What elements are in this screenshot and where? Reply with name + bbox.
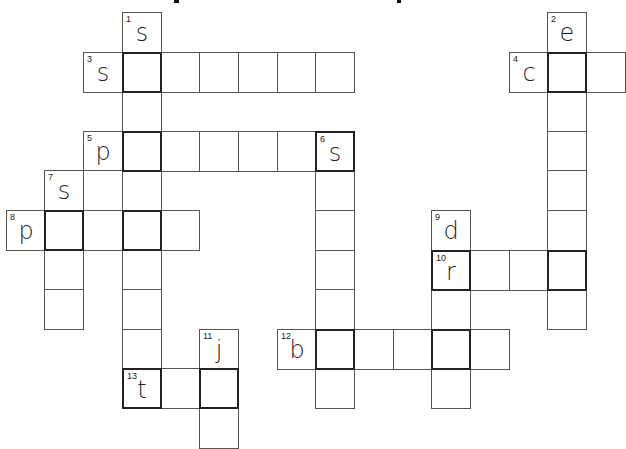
answer-cell[interactable] [547, 289, 587, 330]
answer-cell[interactable] [83, 210, 123, 251]
clue-cell-8[interactable]: 8p [6, 210, 46, 251]
clue-cell-10[interactable]: 10r [431, 250, 471, 291]
answer-cell[interactable] [470, 329, 510, 370]
answer-cell[interactable] [315, 210, 355, 251]
answer-cell[interactable] [122, 170, 162, 211]
hint-letter: s [317, 140, 353, 166]
answer-cell[interactable] [354, 329, 394, 370]
answer-cell[interactable] [199, 368, 239, 409]
hint-letter: s [45, 178, 83, 204]
hint-letter: p [84, 139, 122, 165]
answer-cell[interactable] [315, 170, 355, 211]
answer-cell[interactable] [160, 131, 200, 172]
answer-cell[interactable] [160, 368, 200, 409]
answer-cell[interactable] [277, 52, 317, 93]
answer-cell[interactable] [44, 210, 84, 251]
clue-cell-5[interactable]: 5p [83, 131, 123, 172]
answer-cell[interactable] [547, 131, 587, 172]
answer-cell[interactable] [431, 368, 471, 409]
answer-cell[interactable] [122, 250, 162, 291]
answer-cell[interactable] [277, 131, 317, 172]
hint-letter: e [548, 20, 586, 46]
answer-cell[interactable] [199, 131, 239, 172]
answer-cell[interactable] [547, 170, 587, 211]
answer-cell[interactable] [238, 52, 278, 93]
hint-letter: p [7, 218, 45, 244]
title-fragment [174, 0, 179, 3]
answer-cell[interactable] [509, 250, 549, 291]
answer-cell[interactable] [470, 250, 510, 291]
answer-cell[interactable] [547, 250, 587, 291]
answer-cell[interactable] [44, 250, 84, 291]
answer-cell[interactable] [431, 329, 471, 370]
answer-cell[interactable] [431, 289, 471, 330]
answer-cell[interactable] [315, 289, 355, 330]
hint-letter: d [432, 218, 470, 244]
hint-letter: t [124, 377, 160, 403]
clue-cell-7[interactable]: 7s [44, 170, 84, 211]
answer-cell[interactable] [586, 52, 626, 93]
answer-cell[interactable] [199, 52, 239, 93]
answer-cell[interactable] [393, 329, 433, 370]
hint-letter: r [433, 259, 469, 285]
answer-cell[interactable] [547, 91, 587, 132]
clue-cell-13[interactable]: 13t [122, 368, 162, 409]
clue-cell-11[interactable]: 11j [199, 329, 239, 370]
answer-cell[interactable] [122, 131, 162, 172]
answer-cell[interactable] [122, 52, 162, 93]
hint-letter: s [84, 60, 122, 86]
hint-letter: b [278, 337, 316, 363]
answer-cell[interactable] [315, 329, 355, 370]
clue-cell-9[interactable]: 9d [431, 210, 471, 251]
hint-letter: s [123, 20, 161, 46]
answer-cell[interactable] [83, 170, 123, 211]
answer-cell[interactable] [122, 91, 162, 132]
answer-cell[interactable] [315, 368, 355, 409]
answer-cell[interactable] [122, 329, 162, 370]
answer-cell[interactable] [122, 210, 162, 251]
clue-cell-2[interactable]: 2e [547, 12, 587, 53]
clue-cell-6[interactable]: 6s [315, 131, 355, 172]
answer-cell[interactable] [547, 52, 587, 93]
title-fragment [397, 0, 401, 3]
answer-cell[interactable] [315, 250, 355, 291]
hint-letter: c [510, 60, 548, 86]
answer-cell[interactable] [238, 131, 278, 172]
answer-cell[interactable] [122, 289, 162, 330]
clue-cell-4[interactable]: 4c [509, 52, 549, 93]
answer-cell[interactable] [160, 210, 200, 251]
answer-cell[interactable] [315, 52, 355, 93]
answer-cell[interactable] [44, 289, 84, 330]
answer-cell[interactable] [199, 408, 239, 449]
clue-cell-12[interactable]: 12b [277, 329, 317, 370]
clue-cell-1[interactable]: 1s [122, 12, 162, 53]
hint-letter: j [200, 337, 238, 363]
answer-cell[interactable] [160, 52, 200, 93]
answer-cell[interactable] [547, 210, 587, 251]
clue-cell-3[interactable]: 3s [83, 52, 123, 93]
